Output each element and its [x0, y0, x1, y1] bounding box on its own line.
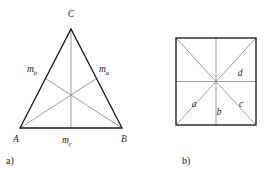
median-label-ma: m a — [99, 64, 110, 76]
region-label-a: a — [192, 99, 197, 109]
panel-b-square: a b c d b) — [176, 38, 256, 167]
region-label-d: d — [238, 68, 243, 78]
caption-panel-a: a) — [6, 155, 14, 167]
median-from-A-to-ma — [20, 79, 97, 129]
median-label-mb: m b — [27, 64, 38, 76]
median-label-mc-sub: c — [69, 140, 72, 147]
region-label-c: c — [239, 99, 244, 109]
triangle-medians — [20, 29, 122, 128]
figure-container: C A B m b m a m c a) — [0, 0, 270, 172]
vertex-label-C: C — [68, 9, 75, 19]
vertex-label-A: A — [12, 134, 19, 144]
region-label-b: b — [217, 107, 222, 117]
caption-panel-b: b) — [182, 155, 190, 167]
median-label-mc: m c — [62, 135, 72, 147]
figure-canvas: C A B m b m a m c a) — [0, 0, 270, 172]
panel-a-triangle: C A B m b m a m c a) — [6, 9, 127, 167]
median-label-mb-sub: b — [34, 69, 38, 76]
vertex-label-B: B — [121, 134, 127, 144]
median-from-B-to-mb — [46, 79, 123, 129]
median-label-ma-sub: a — [106, 69, 110, 76]
